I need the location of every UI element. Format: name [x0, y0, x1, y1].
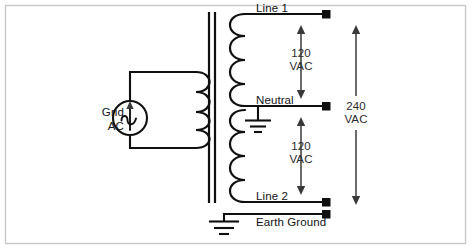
label-dim-upper-120: 120VAC [281, 47, 321, 73]
dim-240-value: 240 [346, 100, 366, 112]
secondary-winding-upper [230, 14, 245, 106]
dim-upper-120-head-bottom [297, 90, 305, 99]
label-dim-240: 240VAC [336, 100, 376, 126]
label-line-2: Line 2 [256, 190, 288, 203]
terminal-line-2 [322, 198, 331, 207]
dim-240-head-top [352, 25, 360, 34]
electrical-diagram: GridAC Line 1 Neutral Line 2 Earth Groun… [0, 0, 472, 250]
primary-top-wire [130, 72, 196, 108]
dim-240-head-bottom [352, 196, 360, 205]
diagram-canvas [0, 0, 472, 250]
dim-lower-120-head-top [297, 117, 305, 126]
label-earth-ground: Earth Ground [256, 216, 326, 229]
terminal-line-1 [322, 10, 331, 19]
terminal-neutral [322, 102, 331, 111]
dim-upper-120-unit: VAC [289, 60, 312, 72]
dim-240-unit: VAC [344, 113, 367, 125]
dim-lower-120-head-bottom [297, 186, 305, 195]
dim-upper-120-value: 120 [291, 47, 311, 59]
source-label: GridAC [88, 105, 124, 133]
dim-lower-120-unit: VAC [289, 153, 312, 165]
primary-winding [196, 72, 210, 148]
label-neutral: Neutral [256, 94, 294, 107]
diagram-frame [6, 6, 466, 244]
source-label-line1: Grid [102, 106, 124, 118]
label-dim-lower-120: 120VAC [281, 140, 321, 166]
source-label-line2: AC [108, 120, 124, 132]
dim-upper-120-head-top [297, 25, 305, 34]
dim-lower-120-value: 120 [291, 140, 311, 152]
label-line-1: Line 1 [256, 2, 288, 15]
secondary-winding-lower [230, 110, 245, 202]
